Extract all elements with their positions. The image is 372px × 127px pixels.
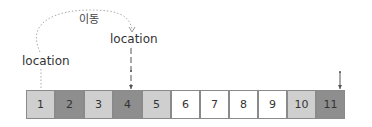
cell-label: 5 — [153, 98, 160, 111]
array-cell: 9 — [258, 90, 287, 119]
array-cell: 3 — [84, 90, 113, 119]
array-cell: 2 — [55, 90, 84, 119]
array-cell: 10 — [287, 90, 316, 119]
cell-label: 1 — [37, 98, 44, 111]
cell-label: 6 — [182, 98, 189, 111]
cell-label: 9 — [269, 98, 276, 111]
cell-label: 11 — [324, 98, 338, 111]
cell-label: 3 — [95, 98, 102, 111]
cell-label: 7 — [211, 98, 218, 111]
array-cells: 1 2 3 4 5 6 7 8 9 10 11 — [26, 90, 345, 119]
cell-label: 10 — [295, 98, 309, 111]
array-cell: 6 — [171, 90, 200, 119]
array-cell: 8 — [229, 90, 258, 119]
cell-label: 2 — [66, 98, 73, 111]
array-cell: 1 — [26, 90, 55, 119]
location-label-new: location — [110, 32, 158, 46]
array-cell: 7 — [200, 90, 229, 119]
move-label: 이동 — [79, 10, 99, 26]
array-cell: 11 — [316, 90, 345, 119]
cell-label: 4 — [124, 98, 131, 111]
cell-label: 8 — [240, 98, 247, 111]
location-label-old: location — [22, 54, 70, 68]
array-cell: 4 — [113, 90, 142, 119]
array-cell: 5 — [142, 90, 171, 119]
